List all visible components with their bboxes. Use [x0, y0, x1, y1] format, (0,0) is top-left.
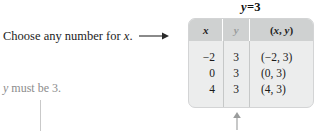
cell-y: 3 [223, 65, 249, 81]
arrow-up-icon [231, 112, 243, 130]
cell-xy: (0, 3) [249, 65, 313, 81]
arrow-right-icon [139, 31, 169, 41]
instruction-suffix: . [129, 29, 132, 43]
equation-value: 3 [254, 0, 261, 14]
cell-y: 3 [223, 81, 249, 97]
table-row: 0 3 (0, 3) [189, 65, 313, 81]
instruction-annotation: Choose any number for x. [3, 28, 169, 44]
table-row: −2 3 (−2, 3) [189, 49, 313, 65]
column-header-xy: (x, y) [250, 19, 313, 41]
equation-caption: y=3 [188, 0, 314, 15]
instruction-text: Choose any number for x. [3, 28, 133, 44]
table-body: −2 3 (−2, 3) 0 3 (0, 3) 4 3 (4, 3) [189, 41, 313, 108]
column-header-y: y [223, 19, 249, 41]
cell-x: −2 [189, 49, 223, 65]
column-header-x: x [189, 19, 222, 41]
rows-top-pad [189, 41, 313, 49]
cell-xy: (−2, 3) [249, 49, 313, 65]
table-row: 4 3 (4, 3) [189, 81, 313, 97]
note-text: y must be 3. [3, 81, 61, 96]
note-leader-line [40, 100, 41, 131]
cell-x: 0 [189, 65, 223, 81]
table-header-row: x y (x, y) [189, 19, 313, 41]
cell-xy: (4, 3) [249, 81, 313, 97]
xy-close-paren: ) [289, 24, 293, 36]
table-rows: −2 3 (−2, 3) 0 3 (0, 3) 4 3 (4, 3) [189, 41, 313, 97]
values-table: x y (x, y) −2 3 (−2, 3) 0 3 (0, 3) 4 3 (… [188, 18, 314, 108]
instruction-prefix: Choose any number for [3, 29, 124, 43]
note-body: must be 3. [8, 81, 61, 95]
cell-x: 4 [189, 81, 223, 97]
cell-y: 3 [223, 49, 249, 65]
